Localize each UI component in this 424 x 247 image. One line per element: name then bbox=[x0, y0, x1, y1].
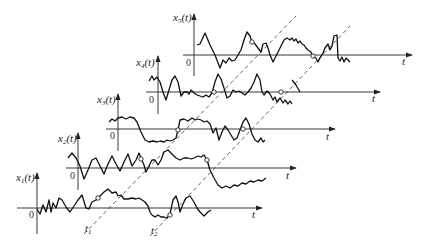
x5-origin-label: 0 bbox=[186, 57, 191, 68]
x4-t-label: t bbox=[372, 92, 376, 104]
x4-t1-sample-point bbox=[212, 90, 216, 94]
x4-waveform-tail bbox=[292, 80, 300, 92]
x3-t2-sample-point bbox=[241, 127, 245, 131]
random-process-ensemble-diagram: x5(t) 0 t x4(t) 0 t x3(t) 0 t x2(t) 0 t bbox=[0, 0, 424, 247]
x2-origin-label: 0 bbox=[70, 170, 75, 181]
x1-t2-sample-point bbox=[168, 213, 172, 217]
x4-label: x4(t) bbox=[135, 56, 155, 70]
x2-t2-sample-point bbox=[205, 158, 209, 162]
sample-x4: x4(t) 0 t bbox=[135, 56, 380, 114]
sample-x3: x3(t) 0 t bbox=[96, 93, 335, 151]
sample-x2: x2(t) 0 t bbox=[57, 132, 296, 190]
x1-label: x1(t) bbox=[15, 171, 35, 185]
t2-label: t2 bbox=[151, 224, 158, 238]
x4-waveform bbox=[149, 74, 292, 104]
x2-t1-sample-point bbox=[139, 157, 143, 161]
x2-label: x2(t) bbox=[57, 132, 77, 146]
x2-t-label: t bbox=[286, 169, 290, 181]
x3-origin-label: 0 bbox=[110, 130, 115, 141]
x5-waveform bbox=[197, 32, 350, 68]
t1-label: t1 bbox=[85, 222, 92, 236]
t1-section-line bbox=[84, 16, 296, 234]
x1-t1-sample-point bbox=[96, 196, 100, 200]
x3-label: x3(t) bbox=[96, 93, 116, 107]
x2-waveform bbox=[68, 150, 266, 188]
x1-origin-label: 0 bbox=[29, 209, 34, 220]
x5-t-label: t bbox=[402, 55, 406, 67]
x5-t2-sample-point bbox=[311, 54, 315, 58]
sample-x1: x1(t) 0 t bbox=[15, 171, 262, 234]
x3-t-label: t bbox=[326, 130, 330, 142]
x4-t2-sample-point bbox=[279, 90, 283, 94]
x5-label: x5(t) bbox=[172, 11, 192, 25]
x4-origin-label: 0 bbox=[149, 94, 154, 105]
x1-t-label: t bbox=[252, 208, 256, 220]
x3-t1-sample-point bbox=[176, 128, 180, 132]
x5-t1-sample-point bbox=[250, 40, 254, 44]
